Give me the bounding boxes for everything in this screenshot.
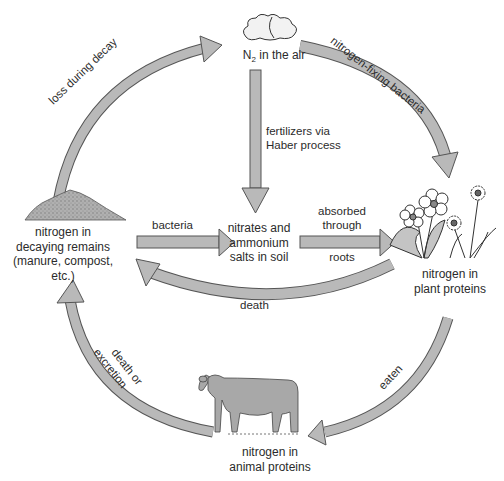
plants-line-1: nitrogen in: [405, 267, 495, 282]
soil-line-2: ammonium: [224, 236, 294, 251]
absorbed-line-1: absorbed: [312, 204, 372, 218]
edge-label-bacteria: bacteria: [152, 218, 193, 232]
remains-line-2: decaying remains: [8, 240, 118, 255]
node-air-label: N2 in the air: [234, 48, 314, 68]
compost-pile-icon: [25, 190, 126, 220]
air-label-rest: in the air: [256, 48, 305, 62]
soil-line-1: nitrates and: [224, 221, 294, 236]
remains-line-4: etc.): [8, 269, 118, 284]
animals-line-1: nitrogen in: [220, 445, 320, 460]
arrow-fertilizers-haber: [242, 70, 269, 213]
absorbed-line-2: through: [312, 218, 372, 232]
animals-line-2: animal proteins: [220, 460, 320, 475]
fertilizers-line-1: fertilizers via: [266, 124, 341, 138]
arrow-death-or-excretion: [57, 280, 213, 432]
cloud-icon: [243, 14, 296, 40]
node-soil-label: nitrates and ammonium salts in soil: [224, 221, 294, 265]
edge-label-roots: roots: [322, 250, 362, 264]
node-animals-label: nitrogen in animal proteins: [220, 445, 320, 474]
remains-line-3: (manure, compost,: [8, 254, 118, 269]
remains-line-1: nitrogen in: [8, 225, 118, 240]
edge-label-absorbed: absorbed through: [312, 204, 372, 232]
fertilizers-line-2: Haber process: [266, 138, 341, 152]
cow-icon: [199, 375, 298, 432]
flowers-icon: [390, 186, 496, 258]
edge-label-death: death: [240, 298, 269, 312]
soil-line-3: salts in soil: [224, 250, 294, 265]
node-plants-label: nitrogen in plant proteins: [405, 267, 495, 296]
plants-line-2: plant proteins: [405, 282, 495, 297]
edge-label-fertilizers: fertilizers via Haber process: [266, 124, 341, 152]
node-remains-label: nitrogen in decaying remains (manure, co…: [8, 225, 118, 283]
arrow-bacteria: [137, 229, 234, 256]
